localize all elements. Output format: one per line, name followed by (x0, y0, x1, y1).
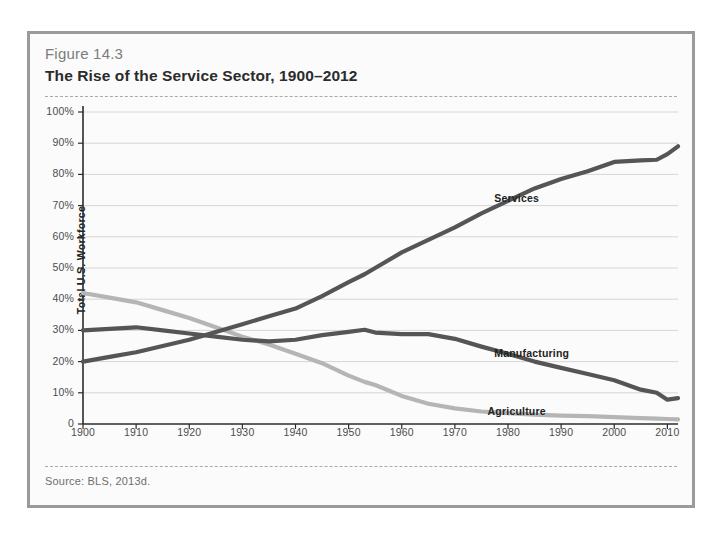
divider-top (45, 96, 677, 97)
figure-frame: Figure 14.3 The Rise of the Service Sect… (27, 31, 695, 508)
x-tick-label: 1980 (485, 426, 531, 438)
x-tick-label: 1900 (60, 426, 106, 438)
series-line-services (83, 146, 678, 361)
x-tick-label: 1920 (166, 426, 212, 438)
source-note: Source: BLS, 2013d. (45, 475, 150, 487)
x-tick-label: 1960 (379, 426, 425, 438)
figure-number: Figure 14.3 (45, 44, 675, 64)
figure-header: Figure 14.3 The Rise of the Service Sect… (45, 44, 675, 87)
x-tick-label: 1910 (113, 426, 159, 438)
x-axis-tick-labels: 1900191019201930194019501960197019801990… (30, 426, 698, 444)
series-label-agriculture: Agriculture (488, 405, 546, 417)
series-label-services: Services (494, 192, 539, 204)
x-tick-label: 1940 (273, 426, 319, 438)
figure-title: The Rise of the Service Sector, 1900–201… (45, 65, 675, 87)
x-tick-label: 1950 (326, 426, 372, 438)
divider-bottom (45, 466, 677, 467)
chart-svg (30, 104, 698, 464)
x-tick-label: 1970 (432, 426, 478, 438)
x-tick-label: 1930 (219, 426, 265, 438)
x-tick-label: 2000 (591, 426, 637, 438)
series-line-agriculture (83, 293, 678, 419)
x-tick-label: 1990 (538, 426, 584, 438)
series-label-manufacturing: Manufacturing (494, 347, 569, 359)
x-tick-label: 2010 (644, 426, 690, 438)
chart-plot-area: Total U.S. Workforce 010%20%30%40%50%60%… (30, 104, 698, 464)
